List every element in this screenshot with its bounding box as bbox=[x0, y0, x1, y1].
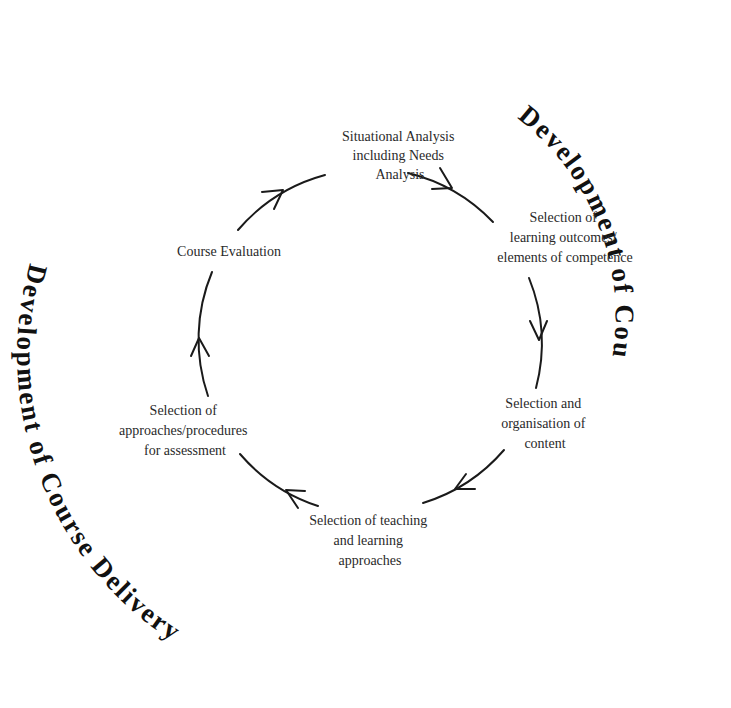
node-content: Selection and organisation of content bbox=[501, 396, 589, 451]
arrow-down-icon bbox=[530, 321, 547, 340]
node-teaching-approaches: Selection of teaching and learning appro… bbox=[309, 513, 431, 568]
node-course-evaluation: Course Evaluation bbox=[177, 244, 281, 259]
heading-development-of-courses: Development of Courses bbox=[0, 0, 640, 362]
arc-teaching-to-assessment bbox=[240, 454, 318, 506]
node-assessment: Selection of approaches/procedures for a… bbox=[119, 403, 251, 458]
arc-assessment-to-evaluation bbox=[199, 272, 212, 396]
arrow-down-left-icon bbox=[455, 474, 475, 489]
course-development-cycle-diagram: Development of Courses Development of Co… bbox=[0, 0, 731, 708]
node-situational-analysis: Situational Analysis including Needs Ana… bbox=[342, 129, 458, 182]
arc-evaluation-to-situational bbox=[238, 175, 325, 230]
cycle-arrowheads bbox=[191, 168, 547, 508]
cycle-arcs bbox=[199, 173, 542, 506]
